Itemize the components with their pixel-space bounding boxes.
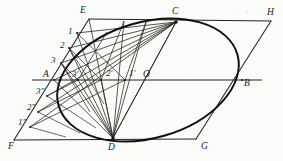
vertex-label-G: G: [201, 142, 208, 152]
division-label-3-double-prime: 3": [36, 87, 44, 96]
division-label-1: 1: [68, 27, 73, 36]
aux-2dd: [38, 112, 80, 133]
division-label-1-prime: 1': [129, 69, 135, 78]
marker-B: [241, 79, 243, 81]
marker-1: [76, 32, 78, 34]
marker-3: [60, 62, 62, 64]
division-label-3-prime: 3': [72, 70, 78, 79]
division-label-2: 2: [60, 41, 65, 50]
marker-2: [68, 47, 70, 49]
division-label-1-double-prime: 1": [18, 118, 26, 127]
division-label-2-double-prime: 2": [27, 103, 35, 112]
geometry-figure: E H G F A B C D O 1 2 3 3' 2' 1' 3" 2" 1…: [0, 0, 283, 161]
marker-3dd: [46, 95, 48, 97]
point-label-A: A: [43, 70, 49, 80]
vertex-label-F: F: [8, 142, 14, 152]
marker-3p: [77, 79, 79, 81]
division-label-2-prime: 2': [106, 69, 112, 78]
marker-2dd: [37, 111, 39, 113]
marker-A: [53, 79, 55, 81]
ray-C-3dd: [47, 22, 176, 96]
point-label-B: B: [244, 79, 250, 89]
aux-1dd: [30, 127, 66, 137]
ext-3p-up: [78, 32, 107, 80]
marker-1p: [124, 79, 126, 81]
point-label-C: C: [172, 7, 178, 17]
marker-2p: [100, 79, 102, 81]
marker-C: [174, 20, 177, 23]
division-label-3: 3: [51, 56, 56, 65]
chord-3dd: [47, 80, 78, 96]
point-label-D: D: [108, 143, 115, 153]
vertex-label-E: E: [80, 6, 86, 16]
aux-3dd: [47, 96, 96, 128]
marker-1dd: [29, 126, 31, 128]
construction-drawing: [0, 0, 283, 161]
point-label-O: O: [143, 70, 150, 80]
seg-D-1p: [113, 80, 125, 138]
vertex-label-H: H: [267, 8, 274, 18]
marker-D: [111, 136, 114, 139]
